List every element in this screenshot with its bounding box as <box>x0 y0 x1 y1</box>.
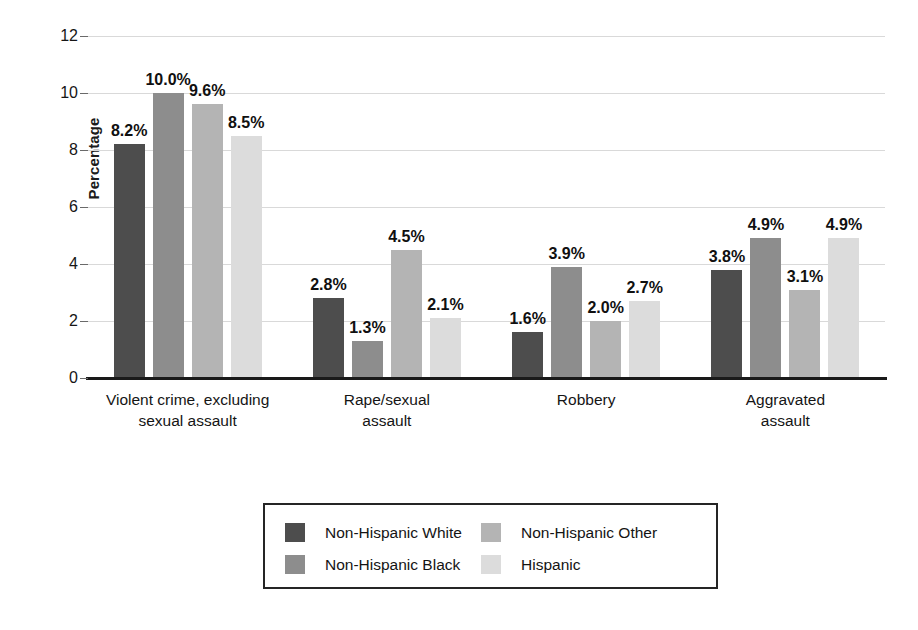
plot-area: 8.2%10.0%9.6%8.5%2.8%1.3%4.5%2.1%1.6%3.9… <box>88 36 885 378</box>
bar-value-label: 8.2% <box>101 123 157 139</box>
y-axis-tick-mark <box>80 93 88 94</box>
bar[interactable] <box>114 144 145 378</box>
y-axis-tick-label: 8 <box>32 142 78 158</box>
y-axis-tick-label: 10 <box>32 85 78 101</box>
y-axis-tick-mark <box>80 378 88 379</box>
legend-label: Non-Hispanic Other <box>521 525 657 541</box>
y-axis-tick-mark <box>80 321 88 322</box>
legend: Non-Hispanic WhiteNon-Hispanic BlackNon-… <box>263 503 718 589</box>
legend-label: Hispanic <box>521 557 580 573</box>
legend-item[interactable]: Non-Hispanic Black <box>285 555 460 574</box>
y-axis-tick-mark <box>80 36 88 37</box>
y-axis-tick-mark <box>80 264 88 265</box>
legend-label: Non-Hispanic Black <box>325 557 460 573</box>
bar[interactable] <box>711 270 742 378</box>
bar-value-label: 1.6% <box>500 311 556 327</box>
bar-value-label: 8.5% <box>218 115 274 131</box>
bar[interactable] <box>391 250 422 378</box>
legend-label: Non-Hispanic White <box>325 525 462 541</box>
bar[interactable] <box>789 290 820 378</box>
bar[interactable] <box>750 238 781 378</box>
legend-swatch-icon <box>481 523 501 542</box>
bar-value-label: 2.1% <box>417 297 473 313</box>
legend-swatch-icon <box>285 523 305 542</box>
legend-item[interactable]: Non-Hispanic White <box>285 523 462 542</box>
bar[interactable] <box>512 332 543 378</box>
bar-value-label: 3.8% <box>699 249 755 265</box>
bar[interactable] <box>231 136 262 378</box>
y-axis-tick-label: 2 <box>32 313 78 329</box>
y-axis-tick-label: 0 <box>32 370 78 386</box>
bar-value-label: 1.3% <box>339 320 395 336</box>
bar-value-label: 2.7% <box>617 280 673 296</box>
y-axis-tick-label: 6 <box>32 199 78 215</box>
category-label-line2: assault <box>257 411 517 432</box>
y-axis-tick-labels: 121086420 <box>22 0 78 630</box>
y-axis-tick-label: 4 <box>32 256 78 272</box>
grouped-bar-chart: Percentage 121086420 8.2%10.0%9.6%8.5%2.… <box>0 0 918 630</box>
bar[interactable] <box>590 321 621 378</box>
bar[interactable] <box>352 341 383 378</box>
y-axis-tick-label: 12 <box>32 28 78 44</box>
bar-value-label: 4.9% <box>816 217 872 233</box>
category-label-line1: Aggravated <box>655 390 915 411</box>
y-axis-tick-mark <box>80 150 88 151</box>
bar-value-label: 4.9% <box>738 217 794 233</box>
bar[interactable] <box>313 298 344 378</box>
bar[interactable] <box>153 93 184 378</box>
legend-item[interactable]: Non-Hispanic Other <box>481 523 657 542</box>
legend-swatch-icon <box>481 555 501 574</box>
bar-value-label: 3.9% <box>539 246 595 262</box>
x-axis-line <box>86 377 887 380</box>
legend-swatch-icon <box>285 555 305 574</box>
bar-value-label: 2.8% <box>300 277 356 293</box>
gridline <box>88 36 885 37</box>
bar-value-label: 9.6% <box>179 83 235 99</box>
legend-item[interactable]: Hispanic <box>481 555 580 574</box>
x-axis-category-label: Aggravatedassault <box>655 390 915 432</box>
bar-value-label: 4.5% <box>378 229 434 245</box>
bar[interactable] <box>551 267 582 378</box>
y-axis-tick-mark <box>80 207 88 208</box>
bar[interactable] <box>828 238 859 378</box>
bar[interactable] <box>192 104 223 378</box>
bar[interactable] <box>629 301 660 378</box>
bar-value-label: 3.1% <box>777 269 833 285</box>
bar-value-label: 2.0% <box>578 300 634 316</box>
bar[interactable] <box>430 318 461 378</box>
category-label-line2: assault <box>655 411 915 432</box>
